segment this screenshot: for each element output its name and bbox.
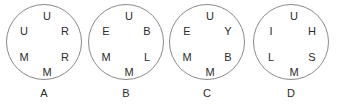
circle-label-d: D bbox=[250, 88, 332, 99]
letter-b-bottom: M bbox=[122, 67, 136, 78]
letter-c-top: U bbox=[203, 11, 217, 22]
letter-b-lower-left: M bbox=[99, 52, 113, 63]
letter-b-upper-right: B bbox=[140, 26, 154, 37]
letter-a-upper-right: R bbox=[58, 26, 72, 37]
letter-c-lower-right: B bbox=[221, 52, 235, 63]
letter-a-top: U bbox=[40, 11, 54, 22]
letter-b-lower-right: L bbox=[140, 52, 154, 63]
circle-group-a: U U R M R M A bbox=[3, 0, 85, 106]
circle-label-c: C bbox=[166, 88, 248, 99]
letter-a-lower-right: R bbox=[58, 52, 72, 63]
letter-d-lower-left: L bbox=[264, 52, 278, 63]
circle-group-c: U E Y M B M C bbox=[166, 0, 248, 106]
circle-label-a: A bbox=[3, 88, 85, 99]
letter-a-lower-left: M bbox=[17, 52, 31, 63]
letter-d-lower-right: S bbox=[305, 52, 319, 63]
letter-c-lower-left: M bbox=[180, 52, 194, 63]
letter-d-bottom: M bbox=[287, 67, 301, 78]
letter-c-bottom: M bbox=[203, 67, 217, 78]
letter-b-top: U bbox=[122, 11, 136, 22]
letter-b-upper-left: E bbox=[99, 26, 113, 37]
circle-group-b: U E B M L M B bbox=[85, 0, 167, 106]
letter-circles-figure: U U R M R M A U E B M L M B U E Y M B M … bbox=[0, 0, 337, 106]
letter-d-upper-left: I bbox=[264, 26, 278, 37]
letter-c-upper-right: Y bbox=[221, 26, 235, 37]
letter-a-upper-left: U bbox=[17, 26, 31, 37]
letter-c-upper-left: E bbox=[180, 26, 194, 37]
letter-d-top: U bbox=[287, 11, 301, 22]
letter-d-upper-right: H bbox=[305, 26, 319, 37]
circle-label-b: B bbox=[85, 88, 167, 99]
letter-a-bottom: M bbox=[40, 67, 54, 78]
circle-group-d: U I H L S M D bbox=[250, 0, 332, 106]
